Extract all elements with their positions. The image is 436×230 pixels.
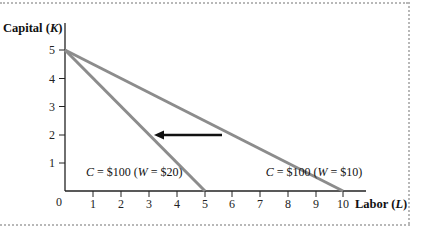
x-tick-label: 10: [337, 197, 349, 211]
isocost-chart: 1 2 3 4 5 0 1 2 3 4 5 6 7 8 9: [0, 0, 436, 230]
y-tick-label: 5: [49, 43, 55, 57]
x-tick-label: 3: [146, 197, 152, 211]
x-tick-label: 7: [257, 197, 263, 211]
x-axis-label: Labor (L): [355, 197, 407, 211]
x-tick-label: 9: [313, 197, 319, 211]
x-tick-label: 1: [90, 197, 96, 211]
line-label-w20: C = $100 (W = $20): [86, 165, 183, 179]
x-tick-label: 8: [285, 197, 291, 211]
x-ticks: 0 1 2 3 4 5 6 7 8 9 10: [56, 191, 349, 211]
x-tick-label: 4: [174, 197, 180, 211]
x-tick-label: 2: [118, 197, 124, 211]
line-label-w10: C = $100 (W = $10): [266, 165, 363, 179]
x-tick-label: 5: [202, 197, 208, 211]
x-tick-label: 6: [229, 197, 235, 211]
y-axis-label: Capital (K): [3, 21, 62, 35]
y-tick-label: 4: [49, 72, 55, 86]
arrow-left-icon: [154, 131, 222, 140]
figure-frame: 1 2 3 4 5 0 1 2 3 4 5 6 7 8 9: [0, 0, 436, 230]
origin-label: 0: [56, 195, 62, 209]
y-ticks: 1 2 3 4 5: [49, 43, 65, 170]
y-tick-label: 3: [49, 100, 55, 114]
y-tick-label: 1: [49, 156, 55, 170]
y-tick-label: 2: [49, 128, 55, 142]
